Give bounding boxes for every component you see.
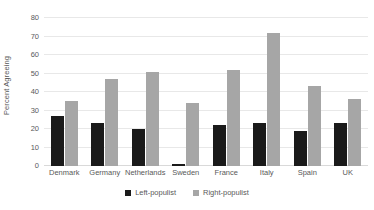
bar-group: [328, 18, 369, 166]
bar-right-populist-denmark[interactable]: [65, 101, 78, 166]
x-tick-label-sweden: Sweden: [166, 168, 207, 177]
legend-item-left-populist[interactable]: Left-populist: [125, 188, 176, 197]
chart-legend: Left-populistRight-populist: [0, 188, 374, 197]
bar-chart: Percent Agreeing 01020304050607080 Denma…: [0, 0, 374, 210]
legend-label: Left-populist: [135, 188, 176, 197]
y-tick-label: 60: [31, 50, 39, 59]
bar-right-populist-italy[interactable]: [267, 33, 280, 166]
bar-left-populist-spain[interactable]: [294, 131, 307, 166]
bar-left-populist-sweden[interactable]: [172, 164, 185, 166]
bar-group: [287, 18, 328, 166]
bar-left-populist-netherlands[interactable]: [132, 129, 145, 166]
x-tick-label-denmark: Denmark: [44, 168, 85, 177]
x-tick-label-germany: Germany: [85, 168, 126, 177]
bar-group: [247, 18, 288, 166]
y-axis-title-label: Percent Agreeing: [3, 55, 12, 114]
bar-group: [85, 18, 126, 166]
y-tick-label: 70: [31, 31, 39, 40]
bar-right-populist-sweden[interactable]: [186, 103, 199, 166]
bar-right-populist-spain[interactable]: [308, 86, 321, 166]
x-tick-label-italy: Italy: [247, 168, 288, 177]
y-tick-label: 0: [35, 161, 39, 170]
bar-right-populist-germany[interactable]: [105, 79, 118, 166]
legend-label: Right-populist: [203, 188, 249, 197]
bar-group: [206, 18, 247, 166]
bar-left-populist-france[interactable]: [213, 125, 226, 166]
bar-group: [44, 18, 85, 166]
y-axis-title: Percent Agreeing: [0, 0, 14, 170]
legend-swatch-icon: [193, 190, 199, 196]
legend-swatch-icon: [125, 190, 131, 196]
x-tick-label-spain: Spain: [287, 168, 328, 177]
x-axis-labels: DenmarkGermanyNetherlandsSwedenFranceIta…: [44, 168, 368, 177]
bar-left-populist-denmark[interactable]: [51, 116, 64, 166]
x-tick-label-uk: UK: [328, 168, 369, 177]
y-tick-label: 40: [31, 87, 39, 96]
plot-area: 01020304050607080: [44, 18, 368, 166]
y-tick-label: 10: [31, 142, 39, 151]
bar-group: [125, 18, 166, 166]
bar-left-populist-germany[interactable]: [91, 123, 104, 166]
bar-group: [166, 18, 207, 166]
legend-item-right-populist[interactable]: Right-populist: [193, 188, 249, 197]
x-tick-label-netherlands: Netherlands: [125, 168, 166, 177]
y-tick-label: 30: [31, 105, 39, 114]
bar-right-populist-uk[interactable]: [348, 99, 361, 166]
x-tick-label-france: France: [206, 168, 247, 177]
bar-left-populist-uk[interactable]: [334, 123, 347, 166]
bar-left-populist-italy[interactable]: [253, 123, 266, 166]
y-tick-label: 80: [31, 13, 39, 22]
y-tick-label: 20: [31, 124, 39, 133]
bar-right-populist-netherlands[interactable]: [146, 72, 159, 166]
bar-right-populist-france[interactable]: [227, 70, 240, 166]
bars-layer: [44, 18, 368, 166]
y-tick-label: 50: [31, 68, 39, 77]
